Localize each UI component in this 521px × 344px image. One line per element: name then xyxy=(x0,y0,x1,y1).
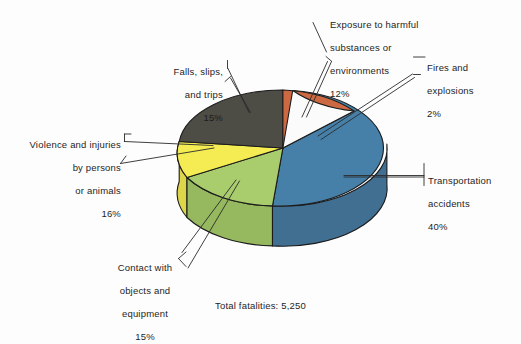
callout-falls-percent: 15% xyxy=(130,112,223,123)
callout-violence-injuries: Violence and injuries by persons or anim… xyxy=(8,128,121,231)
callout-fires-line2: explosions xyxy=(427,85,474,96)
callout-transportation-accidents: Transportation accidents 40% xyxy=(428,164,521,244)
callout-falls-line1: Falls, slips, xyxy=(174,66,223,77)
callout-contact-line1: Contact with xyxy=(118,262,173,273)
leader-exposure-a xyxy=(313,23,327,53)
callout-violence-line1: Violence and injuries xyxy=(30,139,121,150)
callout-exposure-line2: substances or xyxy=(330,42,392,53)
callout-contact-line2: objects and xyxy=(120,285,171,296)
callout-violence-line3: or animals xyxy=(75,185,121,196)
callout-fires-explosions: Fires and explosions 2% xyxy=(427,51,519,131)
callout-contact-objects-equipment: Contact with objects and equipment 15% xyxy=(110,251,180,344)
callout-contact-percent: 15% xyxy=(110,331,180,342)
callout-transportation-line1: Transportation xyxy=(428,175,492,186)
callout-falls-slips-trips: Falls, slips, and trips 15% xyxy=(130,55,223,135)
callout-violence-percent: 16% xyxy=(8,208,121,219)
callout-fires-line1: Fires and xyxy=(427,62,468,73)
callout-transportation-percent: 40% xyxy=(428,221,521,232)
leader-falls-tick xyxy=(225,77,231,82)
callout-violence-line2: by persons xyxy=(73,162,121,173)
total-fatalities-caption: Total fatalities: 5,250 xyxy=(0,300,521,311)
callout-exposure-line3: environments xyxy=(330,65,389,76)
callout-transportation-line2: accidents xyxy=(428,198,470,209)
callout-exposure-line1: Exposure to harmful xyxy=(330,19,419,30)
callout-fires-percent: 2% xyxy=(427,108,519,119)
callout-falls-line2: and trips xyxy=(185,89,223,100)
